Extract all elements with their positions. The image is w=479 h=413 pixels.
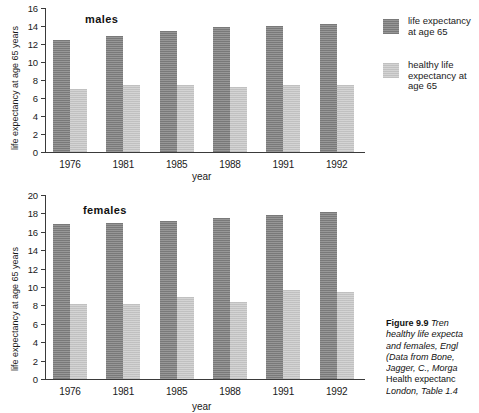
- y-tick: [41, 44, 45, 45]
- y-tick-label: 10: [7, 283, 38, 293]
- y-tick: [41, 250, 45, 251]
- y-tick-label: 14: [7, 246, 38, 256]
- y-tick: [41, 26, 45, 27]
- caption-text-roman: Health expectanc: [386, 374, 456, 384]
- y-tick: [41, 324, 45, 325]
- x-axis-title-males: year: [192, 172, 211, 182]
- caption-text-italic: and females, Engl: [386, 341, 458, 351]
- legend-label-healthy-life-expectancy: healthy life expectancy at age 65: [408, 60, 479, 92]
- y-tick-label: 16: [7, 228, 38, 238]
- x-tick-label: 1985: [155, 387, 199, 397]
- y-tick: [41, 269, 45, 270]
- chart-legend: life expectancy at age 65 healthy life e…: [383, 16, 479, 106]
- y-tick-label: 4: [7, 338, 38, 348]
- bar: [320, 212, 337, 379]
- bar: [283, 290, 300, 379]
- x-axis-line-females: [45, 379, 365, 380]
- y-tick: [41, 98, 45, 99]
- legend-swatch-life-expectancy: [383, 19, 399, 34]
- x-tick-label: 1992: [315, 387, 359, 397]
- x-axis-title-females: year: [192, 402, 211, 412]
- bar: [106, 36, 123, 152]
- bar: [230, 302, 247, 379]
- y-tick-label: 2: [7, 130, 38, 140]
- x-tick-label: 1976: [48, 160, 92, 170]
- bar: [177, 85, 194, 153]
- y-tick-label: 8: [7, 301, 38, 311]
- x-tick-label: 1991: [261, 160, 305, 170]
- bar: [213, 27, 230, 152]
- bar: [70, 304, 87, 379]
- bar: [213, 218, 230, 379]
- y-tick: [41, 62, 45, 63]
- x-tick-label: 1988: [208, 160, 252, 170]
- caption-text-italic: healthy life expecta: [386, 329, 463, 339]
- caption-line: Health expectanc: [386, 374, 479, 385]
- bar: [123, 304, 140, 379]
- y-tick-label: 10: [7, 58, 38, 68]
- y-tick: [41, 232, 45, 233]
- bar: [320, 24, 337, 152]
- y-tick-label: 14: [7, 22, 38, 32]
- y-tick-label: 2: [7, 357, 38, 367]
- y-tick-label: 0: [7, 148, 38, 158]
- caption-line: and females, Engl: [386, 341, 479, 352]
- y-tick-label: 20: [7, 191, 38, 201]
- y-axis-line-males: [45, 8, 46, 153]
- legend-item-healthy-life-expectancy: healthy life expectancy at age 65: [383, 60, 479, 92]
- panel-title-females: females: [83, 204, 127, 216]
- caption-text-italic: (Data from Bone,: [386, 352, 455, 362]
- bar: [266, 215, 283, 379]
- caption-text-italic: London, Table 1.4: [386, 386, 458, 396]
- bar: [70, 89, 87, 152]
- y-tick-label: 4: [7, 112, 38, 122]
- bar: [266, 26, 283, 152]
- chart-females: life expectancy at age 65 years females …: [0, 190, 370, 413]
- bar: [230, 87, 247, 152]
- chart-males: life expectancy at age 65 years males 19…: [0, 0, 370, 180]
- y-tick: [41, 287, 45, 288]
- caption-text-italic: Jagger, C., Morga: [386, 363, 458, 373]
- x-tick-label: 1981: [101, 387, 145, 397]
- y-tick: [41, 305, 45, 306]
- figure-caption: Figure 9.9 Trenhealthy life expectaand f…: [386, 318, 479, 397]
- caption-line: London, Table 1.4: [386, 386, 479, 397]
- plot-area-females: [45, 195, 365, 380]
- y-tick: [41, 8, 45, 9]
- x-tick-label: 1981: [101, 160, 145, 170]
- y-tick-label: 6: [7, 94, 38, 104]
- y-tick: [41, 80, 45, 81]
- x-tick-label: 1988: [208, 387, 252, 397]
- y-tick: [41, 379, 45, 380]
- x-tick-label: 1991: [261, 387, 305, 397]
- caption-line: Figure 9.9 Tren: [386, 318, 479, 329]
- y-tick-label: 8: [7, 76, 38, 86]
- bar: [160, 221, 177, 379]
- x-tick-label: 1976: [48, 387, 92, 397]
- x-tick-label: 1985: [155, 160, 199, 170]
- y-tick-label: 12: [7, 40, 38, 50]
- y-tick: [41, 195, 45, 196]
- legend-label-life-expectancy: life expectancy at age 65: [408, 16, 479, 37]
- y-tick: [41, 213, 45, 214]
- panel-title-males: males: [85, 13, 118, 25]
- bar: [337, 292, 354, 379]
- y-tick-label: 0: [7, 375, 38, 385]
- y-tick-label: 12: [7, 265, 38, 275]
- bar: [123, 85, 140, 153]
- y-tick: [41, 342, 45, 343]
- y-tick-label: 18: [7, 209, 38, 219]
- caption-figure-number: Figure 9.9: [386, 318, 429, 328]
- bar: [160, 31, 177, 152]
- y-tick-label: 6: [7, 320, 38, 330]
- y-tick: [41, 152, 45, 153]
- caption-line: Jagger, C., Morga: [386, 363, 479, 374]
- caption-text-italic: Tren: [429, 318, 449, 328]
- caption-line: (Data from Bone,: [386, 352, 479, 363]
- bar: [337, 85, 354, 153]
- x-axis-line-males: [45, 152, 365, 153]
- bar: [283, 85, 300, 153]
- plot-area-males: [45, 8, 365, 153]
- legend-item-life-expectancy: life expectancy at age 65: [383, 16, 479, 46]
- y-tick-label: 16: [7, 4, 38, 14]
